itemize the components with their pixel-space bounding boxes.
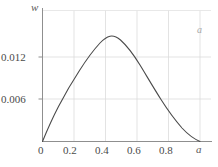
x-tick-label: 0.2	[63, 144, 77, 156]
x-tick-label: 0.6	[127, 144, 141, 156]
corner-annotation: a	[197, 24, 202, 35]
y-axis-title: w	[31, 1, 38, 13]
axes	[39, 8, 213, 142]
y-tick-label: 0.012	[1, 51, 26, 63]
x-tick-label: 0	[38, 144, 44, 156]
grid-lines	[43, 11, 212, 142]
x-axis-title: a	[196, 143, 202, 155]
x-tick-label: 0.4	[95, 144, 109, 156]
y-tick-label: 0.006	[1, 93, 26, 105]
chart-figure: 0.012 0.006 0 0.2 0.4 0.6 0.8 w a a	[0, 0, 218, 167]
x-tick-label: 0.8	[159, 144, 173, 156]
data-curve	[43, 36, 201, 141]
plot-canvas	[0, 0, 218, 167]
